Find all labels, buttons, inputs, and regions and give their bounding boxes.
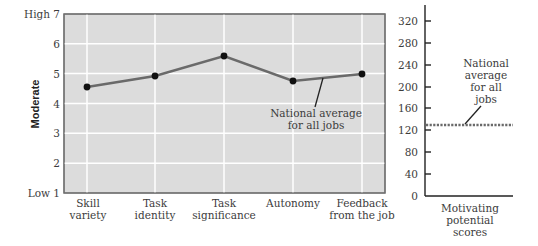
r-tick-320: 320 bbox=[398, 15, 418, 27]
svg-text:variety: variety bbox=[69, 209, 107, 221]
point-autonomy bbox=[290, 78, 297, 85]
svg-text:for all: for all bbox=[470, 81, 502, 93]
point-skill-variety bbox=[84, 84, 91, 91]
svg-text:scores: scores bbox=[453, 226, 487, 238]
svg-text:National average: National average bbox=[270, 107, 362, 119]
r-tick-80: 80 bbox=[405, 146, 418, 158]
point-task-significance bbox=[221, 53, 228, 60]
svg-text:jobs: jobs bbox=[473, 93, 497, 105]
svg-text:Motivating: Motivating bbox=[441, 202, 499, 214]
left-x-categories: Skill variety Task identity Task signifi… bbox=[69, 197, 395, 221]
point-task-identity bbox=[152, 73, 159, 80]
r-tick-160: 160 bbox=[398, 102, 418, 114]
y-tick-6: 6 bbox=[53, 38, 60, 50]
r-tick-240: 240 bbox=[398, 59, 418, 71]
svg-text:from the job: from the job bbox=[329, 209, 395, 221]
r-tick-200: 200 bbox=[398, 81, 418, 93]
y-tick-3: 3 bbox=[53, 127, 60, 139]
r-tick-40: 40 bbox=[405, 168, 418, 180]
svg-text:average: average bbox=[465, 69, 508, 81]
y-tick-1: Low 1 bbox=[28, 187, 60, 199]
right-x-label: Motivating potential scores bbox=[441, 202, 499, 238]
y-tick-7: High 7 bbox=[24, 8, 60, 20]
svg-text:National: National bbox=[463, 57, 509, 69]
y-tick-5: 5 bbox=[53, 68, 60, 80]
svg-text:significance: significance bbox=[192, 209, 256, 221]
svg-text:potential: potential bbox=[446, 214, 494, 226]
left-y-axis-label: Moderate bbox=[29, 80, 41, 129]
right-y-tickmarks bbox=[425, 21, 431, 174]
right-annotation: National average for all jobs bbox=[463, 57, 509, 105]
y-tick-2: 2 bbox=[53, 157, 60, 169]
x-cat-skill-variety: Skill bbox=[76, 197, 100, 209]
y-tick-4: 4 bbox=[53, 98, 60, 110]
svg-text:for all jobs: for all jobs bbox=[288, 119, 345, 131]
annotation-leader-right bbox=[465, 106, 481, 124]
r-tick-0: 0 bbox=[411, 190, 418, 202]
x-cat-task-significance: Task bbox=[212, 197, 237, 209]
svg-text:identity: identity bbox=[135, 209, 176, 221]
left-chart: High 7 6 5 4 3 2 Low 1 Moderate bbox=[24, 8, 395, 221]
right-y-ticks: 0 40 80 120 160 200 240 280 320 bbox=[398, 15, 418, 202]
x-cat-task-identity: Task bbox=[143, 197, 168, 209]
right-chart: 0 40 80 120 160 200 240 280 320 National… bbox=[398, 5, 513, 238]
point-feedback bbox=[359, 71, 366, 78]
x-cat-feedback: Feedback bbox=[336, 197, 388, 209]
x-cat-autonomy: Autonomy bbox=[265, 197, 320, 209]
r-tick-280: 280 bbox=[398, 37, 418, 49]
job-characteristics-figure: High 7 6 5 4 3 2 Low 1 Moderate bbox=[0, 0, 538, 246]
r-tick-120: 120 bbox=[398, 124, 418, 136]
